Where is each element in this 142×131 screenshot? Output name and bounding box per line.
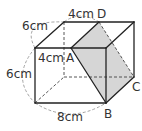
point-C-label: C (132, 80, 140, 94)
width-label: 8cm (57, 110, 83, 124)
edge-top-right-depth (106, 22, 134, 48)
point-B-label: B (104, 107, 112, 121)
hidden-edge-bottom-left-depth (35, 77, 64, 103)
cuboid-diagram: 6cm 4cm D 4cm A 6cm C 8cm B (0, 0, 142, 131)
point-A-label: A (66, 51, 75, 65)
point-D-label: D (97, 7, 106, 21)
depth-label: 6cm (22, 19, 48, 33)
height-label: 6cm (6, 67, 32, 81)
front-top-segment-label: 4cm (38, 51, 64, 65)
top-back-segment-label: 4cm (68, 7, 94, 21)
